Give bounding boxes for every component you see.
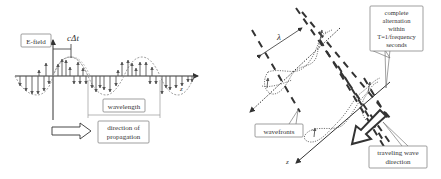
traveling-leader-b xyxy=(383,122,408,146)
lambda-label: λ xyxy=(276,32,281,42)
alternation-line4: T=1/frequency xyxy=(377,33,416,40)
alternation-line2: alternation xyxy=(383,17,412,24)
direction-label-line2: propagation xyxy=(107,133,141,141)
alternation-line1: complete xyxy=(385,9,409,16)
traveling-line1: traveling wave xyxy=(377,149,418,157)
wave-vectors xyxy=(267,30,370,137)
em-wave-diagram: z E-field cΔt wavelength direction of pr… xyxy=(0,0,441,179)
c-delta-t-label: cΔt xyxy=(67,33,79,43)
direction-label-line1: direction of xyxy=(107,124,140,132)
efield-label: E-field xyxy=(26,38,46,46)
wavefronts-label: wavefronts xyxy=(263,128,294,136)
upper-axis-line xyxy=(250,28,340,112)
right-z-label: z xyxy=(285,158,289,166)
lambda-dimension-line xyxy=(261,28,302,55)
left-z-label: z xyxy=(179,85,183,93)
wave-envelope-2 xyxy=(53,57,90,76)
traveling-leader-a xyxy=(383,122,402,146)
linear-wave-panel: z E-field cΔt wavelength direction of pr… xyxy=(15,33,198,143)
alternation-line5: seconds xyxy=(386,41,407,48)
propagation-arrow-icon xyxy=(52,123,91,139)
wavefront-panel: z λ complete alternation within T=1/freq… xyxy=(250,6,427,168)
traveling-line2: direction xyxy=(386,158,411,166)
alternation-line3: within xyxy=(388,25,405,32)
wavelength-label: wavelength xyxy=(108,103,141,111)
